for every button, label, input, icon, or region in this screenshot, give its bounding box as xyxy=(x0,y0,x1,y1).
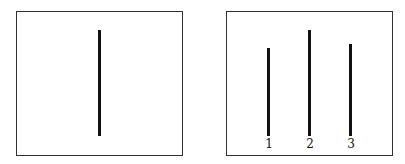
comparison-line-3 xyxy=(349,44,352,136)
reference-line xyxy=(98,30,101,136)
comparison-line-1 xyxy=(267,48,270,136)
line-label-1: 1 xyxy=(262,137,276,151)
comparison-line-2 xyxy=(308,30,311,136)
line-label-3: 3 xyxy=(344,137,358,151)
line-label-2: 2 xyxy=(303,137,317,151)
